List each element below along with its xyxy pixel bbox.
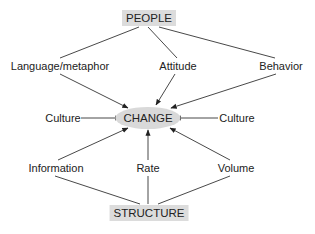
change-node: CHANGE: [115, 107, 180, 129]
edge-people-attitude: [148, 27, 177, 58]
volume-node: Volume: [218, 161, 255, 175]
culture-right-node: Culture: [219, 111, 254, 125]
edge-information-change: [58, 128, 128, 160]
attitude-node: Attitude: [159, 59, 196, 73]
culture-left-node: Culture: [45, 111, 80, 125]
structure-node: STRUCTURE: [110, 205, 189, 221]
people-node: PEOPLE: [122, 10, 176, 26]
rate-node: Rate: [136, 161, 159, 175]
edge-attitude-change: [156, 74, 175, 105]
behavior-node: Behavior: [259, 59, 302, 73]
edge-structure-information: [55, 176, 140, 204]
edge-people-behavior: [159, 27, 275, 58]
information-node: Information: [28, 161, 83, 175]
edge-people-language: [60, 27, 139, 58]
language-metaphor-node: Language/metaphor: [11, 59, 109, 73]
edge-language-change: [60, 74, 128, 108]
edge-behavior-change: [171, 74, 276, 108]
edge-volume-change: [170, 128, 230, 160]
edge-structure-volume: [158, 176, 230, 204]
